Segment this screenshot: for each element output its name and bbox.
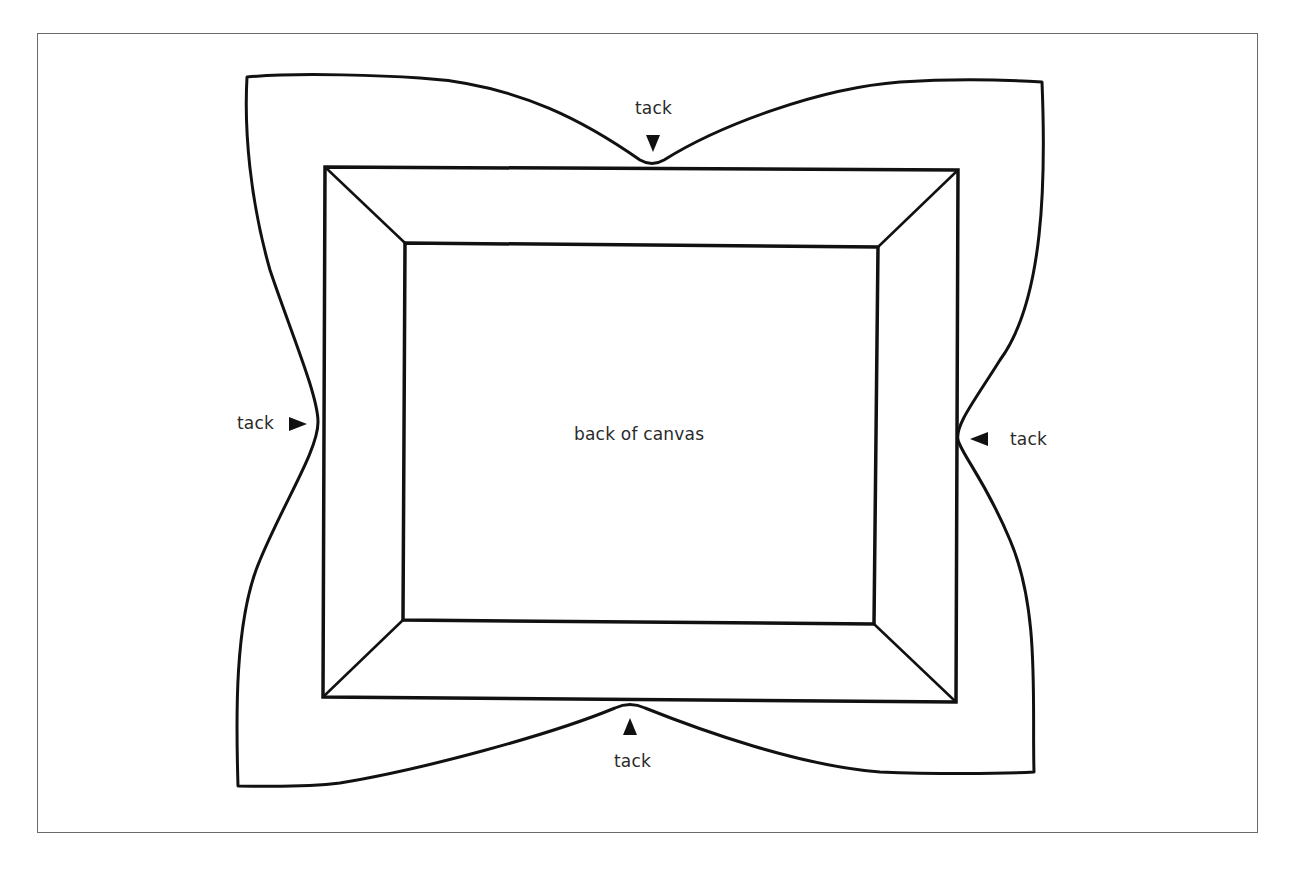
tack-label-left: tack xyxy=(237,413,274,433)
miter-bottom-left xyxy=(323,620,403,697)
tack-label-bottom: tack xyxy=(614,751,651,771)
tack-label-right: tack xyxy=(1010,429,1047,449)
arrow-left-icon xyxy=(970,432,988,446)
center-label: back of canvas xyxy=(574,424,704,444)
tack-label-top: tack xyxy=(635,98,672,118)
miter-top-right xyxy=(878,170,958,247)
miter-top-left xyxy=(325,167,405,243)
arrow-down-icon xyxy=(646,135,660,152)
arrow-up-icon xyxy=(623,718,637,735)
miter-bottom-right xyxy=(874,624,956,702)
arrow-right-icon xyxy=(289,417,307,431)
